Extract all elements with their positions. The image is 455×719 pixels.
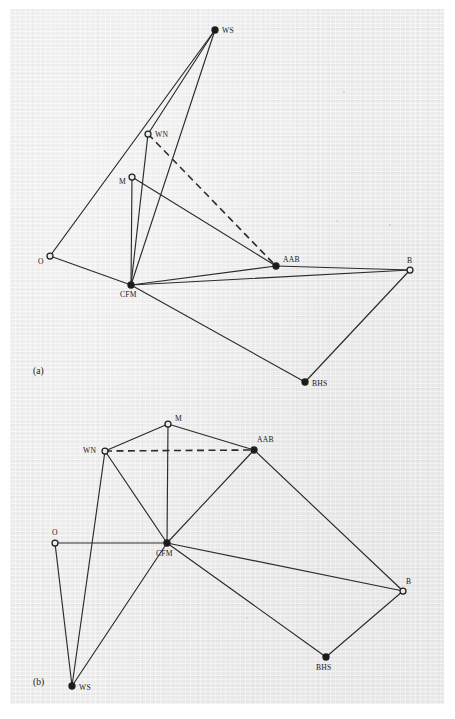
edge-wn-ws	[72, 451, 105, 686]
node-b[interactable]	[407, 267, 413, 273]
network-diagram-svg: WSWNMOCFMAABBBHS MWNAABOCFMBBHSWS (a)(b)	[0, 0, 455, 719]
node-label-b: B	[407, 256, 412, 265]
panel-b-edges	[55, 424, 403, 686]
node-cfm[interactable]	[164, 540, 170, 546]
edge-ws-cfm	[131, 30, 215, 285]
node-b[interactable]	[400, 588, 406, 594]
edge-ws-wn	[148, 30, 215, 134]
node-bhs[interactable]	[302, 379, 308, 385]
node-label-ws: WS	[79, 683, 91, 692]
node-aab[interactable]	[251, 447, 257, 453]
edge-cfm-aab	[131, 266, 276, 285]
edge-m-cfm	[167, 424, 168, 543]
edge-cfm-b	[131, 270, 410, 285]
figure-root: WSWNMOCFMAABBBHS MWNAABOCFMBBHSWS (a)(b)	[0, 0, 455, 719]
edge-cfm-ws	[72, 543, 167, 686]
node-label-m: M	[175, 414, 182, 423]
node-m[interactable]	[129, 174, 135, 180]
edge-cfm-bhs	[131, 285, 305, 382]
panel-label-a: (a)	[33, 366, 44, 377]
node-label-wn: WN	[155, 130, 168, 139]
node-label-b: B	[406, 577, 411, 586]
node-label-aab: AAB	[257, 435, 274, 444]
edge-wn-cfm	[105, 451, 167, 543]
edge-m-aab	[132, 177, 276, 266]
node-ws[interactable]	[69, 683, 75, 689]
node-ws[interactable]	[212, 27, 218, 33]
node-label-aab: AAB	[283, 255, 300, 264]
node-label-ws: WS	[222, 26, 234, 35]
edge-o-ws	[55, 543, 72, 686]
edge-bhs-b	[326, 591, 403, 657]
node-label-bhs: BHS	[316, 663, 332, 672]
edge-wn-aab	[105, 450, 254, 451]
node-label-o: O	[38, 257, 44, 266]
edge-wn-aab	[148, 134, 276, 266]
panel-label-b: (b)	[33, 677, 44, 688]
edge-wn-m	[105, 424, 168, 451]
edge-cfm-bhs	[167, 543, 326, 657]
edge-m-aab	[168, 424, 254, 450]
node-label-wn: WN	[83, 446, 96, 455]
edge-wn-cfm	[131, 134, 148, 285]
panel-a-edges	[50, 30, 410, 382]
node-aab[interactable]	[273, 263, 279, 269]
node-label-cfm: CFM	[156, 549, 173, 558]
node-m[interactable]	[165, 421, 171, 427]
node-wn[interactable]	[145, 131, 151, 137]
node-label-o: O	[52, 528, 58, 537]
panel-labels: (a)(b)	[33, 366, 44, 688]
node-o[interactable]	[52, 540, 58, 546]
node-label-m: M	[119, 177, 126, 186]
edge-ws-o	[50, 30, 215, 256]
node-o[interactable]	[47, 253, 53, 259]
edge-cfm-b	[167, 543, 403, 591]
panel-a-nodes: WSWNMOCFMAABBBHS	[38, 26, 413, 388]
edge-aab-cfm	[167, 450, 254, 543]
node-label-bhs: BHS	[312, 379, 328, 388]
edge-bhs-b	[305, 270, 410, 382]
node-wn[interactable]	[102, 448, 108, 454]
edge-o-cfm	[50, 256, 131, 285]
edge-aab-b	[254, 450, 403, 591]
node-cfm[interactable]	[128, 282, 134, 288]
edge-m-cfm	[131, 177, 132, 285]
panel-b-nodes: MWNAABOCFMBBHSWS	[52, 414, 411, 692]
node-bhs[interactable]	[323, 654, 329, 660]
node-label-cfm: CFM	[120, 290, 137, 299]
edge-aab-b	[276, 266, 410, 270]
